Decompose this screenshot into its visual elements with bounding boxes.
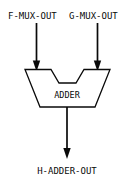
adder-block-shape	[25, 70, 110, 108]
connector-g-mux-out-to-adder	[94, 23, 101, 72]
output-label-h-adder-out: H-ADDER-OUT	[37, 166, 97, 176]
adder-block-diagram: F-MUX-OUT G-MUX-OUT ADDER H-ADDER-OUT	[0, 0, 134, 178]
arrowhead-down-icon	[63, 148, 70, 159]
input-label-g-mux-out: G-MUX-OUT	[69, 11, 118, 21]
adder-block-label: ADDER	[54, 90, 80, 100]
diagram-canvas: F-MUX-OUT G-MUX-OUT ADDER H-ADDER-OUT	[0, 0, 134, 178]
input-label-f-mux-out: F-MUX-OUT	[8, 11, 57, 21]
connector-adder-to-h-adder-out	[63, 107, 70, 159]
connector-f-mux-out-to-adder	[33, 23, 40, 72]
